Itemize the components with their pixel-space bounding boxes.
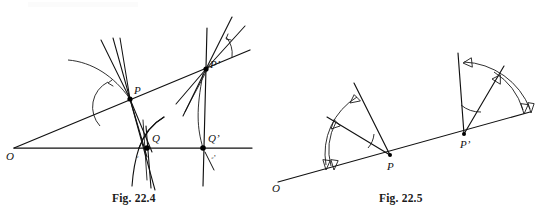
fig224-label-qprime: Q’ [208, 132, 220, 144]
fig225-arrowhead-p-mid [331, 120, 340, 129]
fig225-arrowhead-pprime-right-2 [528, 103, 534, 113]
figure-22-5: P P’ O [268, 0, 536, 221]
fig225-point-p-dot [388, 153, 392, 157]
fig225-reference-line-pprime [458, 53, 464, 134]
fig224-angle-arc-p [93, 82, 108, 126]
caption-fig-22-5: Fig. 22.5 [379, 192, 423, 204]
fig225-label-p: P [386, 160, 394, 172]
fig225-arrowhead-p-top [350, 95, 360, 103]
fig225-sweep-arc-pprime-inner [494, 72, 523, 110]
fig224-point-q-dot [144, 145, 150, 151]
fig224-label-pprime: P’ [209, 58, 221, 70]
fig224-point-pprime-dot [203, 66, 208, 71]
fig224-secant-p-down-3 [130, 99, 155, 190]
fig225-vertex-arc-p [368, 134, 374, 148]
caption-fig-22-4: Fig. 22.4 [112, 192, 156, 204]
fig225-arrowhead-p-left-1 [323, 160, 330, 170]
fig224-label-q: Q [152, 132, 160, 144]
fig224-curve-cprime-line [203, 28, 207, 186]
fig225-label-pprime: P’ [459, 138, 471, 150]
fig225-arrowhead-p-left-2 [331, 160, 338, 170]
fig224-angle-arrow-pprime [226, 34, 231, 40]
fig224-label-p: P [133, 84, 141, 96]
fig225-label-o: O [272, 182, 280, 194]
fig224-label-curve-c: ᶜ [136, 153, 139, 162]
fig224-angle-arrow-p [108, 80, 113, 86]
figure-sheet: P P’ Q ᶜ Q’ ᶜ’ O [0, 0, 536, 221]
fig225-point-pprime-dot [462, 132, 466, 136]
fig224-point-qprime-dot [200, 145, 206, 151]
fig224-point-p-dot [127, 96, 132, 101]
fig225-sweep-arc-p-outer [325, 97, 357, 165]
fig224-label-curve-cprime: ᶜ’ [211, 154, 216, 163]
fig224-label-o: O [6, 150, 14, 162]
fig225-base-ray [278, 112, 530, 182]
figure-22-4: P P’ Q ᶜ Q’ ᶜ’ O [0, 0, 268, 221]
